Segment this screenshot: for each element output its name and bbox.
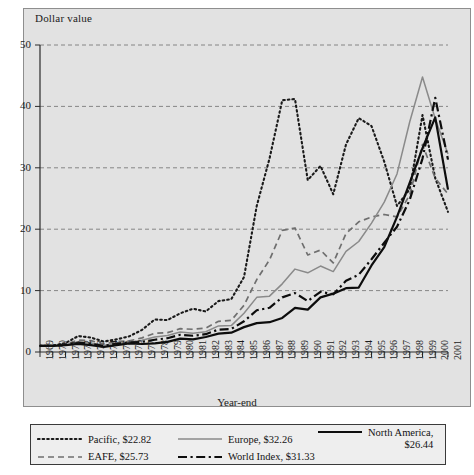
series-line-pacific xyxy=(40,99,448,346)
x-tick-label: 1976 xyxy=(133,340,144,360)
x-tick-label: 1984 xyxy=(235,340,246,360)
x-tick-label: 1999 xyxy=(427,340,438,360)
x-tick-label: 1990 xyxy=(312,340,323,360)
solid-gray-line-swatch xyxy=(177,434,223,444)
x-tick-label: 1993 xyxy=(350,340,361,360)
chart-page: Dollar value 01020304050 196919701971197… xyxy=(0,0,474,475)
x-tick-label: 1995 xyxy=(376,340,387,360)
legend-label: EAFE, $25.73 xyxy=(88,451,148,462)
x-tick-label: 1972 xyxy=(82,340,93,360)
x-axis-title: Year-end xyxy=(0,396,474,408)
x-tick-label: 1988 xyxy=(286,340,297,360)
series-line-eafe xyxy=(40,144,448,346)
legend-item: Pacific, $22.82 xyxy=(37,434,177,445)
x-tick-label: 1994 xyxy=(363,340,374,360)
series-line-world-index xyxy=(40,98,448,346)
x-tick-label: 1982 xyxy=(210,340,221,360)
legend-label: North America,$26.44 xyxy=(368,427,433,451)
x-tick-label: 1975 xyxy=(121,340,132,360)
legend-item: World Index, $31.33 xyxy=(177,451,317,462)
dashed-line-swatch xyxy=(37,452,83,462)
x-tick-label: 2000 xyxy=(439,340,450,360)
x-tick-label: 1980 xyxy=(184,340,195,360)
y-tick-label: 40 xyxy=(7,99,31,111)
x-tick-label: 1971 xyxy=(70,340,81,360)
y-tick-label: 10 xyxy=(7,284,31,296)
chart-legend: Pacific, $22.82Europe, $32.26North Ameri… xyxy=(30,424,446,465)
x-tick-label: 1985 xyxy=(248,340,259,360)
x-tick-label: 1992 xyxy=(337,340,348,360)
x-tick-label: 1998 xyxy=(414,340,425,360)
legend-item: North America,$26.44 xyxy=(317,427,453,451)
y-tick-label: 0 xyxy=(7,345,31,357)
x-tick-label: 1991 xyxy=(325,340,336,360)
x-tick-label: 1979 xyxy=(172,340,183,360)
x-tick-label: 1969 xyxy=(44,340,55,360)
x-tick-label: 2001 xyxy=(452,340,463,360)
x-tick-label: 1983 xyxy=(223,340,234,360)
x-tick-label: 1974 xyxy=(108,340,119,360)
x-tick-label: 1978 xyxy=(159,340,170,360)
dotted-line-swatch xyxy=(37,434,83,444)
y-tick-label: 50 xyxy=(7,38,31,50)
legend-item: EAFE, $25.73 xyxy=(37,451,177,462)
legend-item: Europe, $32.26 xyxy=(177,434,317,445)
x-tick-label: 1987 xyxy=(274,340,285,360)
x-tick-label: 1977 xyxy=(146,340,157,360)
y-tick-label: 20 xyxy=(7,222,31,234)
solid-black-line-swatch xyxy=(317,427,363,437)
legend-label: World Index, $31.33 xyxy=(228,451,315,462)
x-tick-label: 1989 xyxy=(299,340,310,360)
x-tick-label: 1996 xyxy=(388,340,399,360)
legend-label: Europe, $32.26 xyxy=(228,434,292,445)
x-tick-label: 1986 xyxy=(261,340,272,360)
x-tick-label: 1997 xyxy=(401,340,412,360)
x-tick-label: 1981 xyxy=(197,340,208,360)
y-tick-label: 30 xyxy=(7,161,31,173)
legend-label: Pacific, $22.82 xyxy=(88,434,151,445)
x-tick-label: 1973 xyxy=(95,340,106,360)
x-tick-label: 1970 xyxy=(57,340,68,360)
dash-dot-line-swatch xyxy=(177,452,223,462)
